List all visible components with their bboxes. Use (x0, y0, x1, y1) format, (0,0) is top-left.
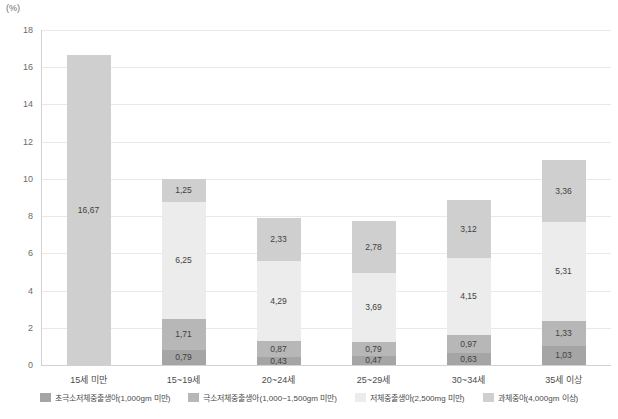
y-axis-tick-label: 14 (23, 99, 33, 109)
bar-segment[interactable]: 1,33 (542, 321, 586, 346)
bar-segment[interactable]: 1,71 (162, 319, 206, 351)
y-axis-tick-label: 6 (28, 248, 33, 258)
bar-stack[interactable]: 1,031,335,313,36 (542, 160, 586, 365)
bar-column[interactable]: 0,470,793,692,7825~29세 (326, 30, 421, 365)
bar-value-label: 0,47 (365, 356, 382, 365)
bar-group: 16,6715세 미만0,791,716,251,2515~19세0,430,8… (41, 30, 611, 365)
x-axis-tick-label: 30~34세 (452, 373, 485, 386)
bar-segment[interactable]: 0,97 (447, 335, 491, 353)
axis-baseline (41, 365, 611, 366)
x-axis-tick-label: 35세 이상 (545, 373, 582, 386)
legend-label: 과체중아(4,000gm 이상) (498, 392, 579, 403)
bar-column[interactable]: 0,791,716,251,2515~19세 (136, 30, 231, 365)
bar-stack[interactable]: 16,67 (67, 55, 111, 365)
bar-segment[interactable]: 2,33 (257, 218, 301, 261)
y-axis-tick-label: 18 (23, 25, 33, 35)
legend-item[interactable]: 초극소저체중출생아(1,000gm 미만) (40, 392, 171, 403)
bar-segment[interactable]: 0,87 (257, 341, 301, 357)
bar-column[interactable]: 0,430,874,292,3320~24세 (231, 30, 326, 365)
bar-value-label: 1,33 (555, 329, 572, 338)
bar-segment[interactable]: 0,47 (352, 356, 396, 365)
legend-swatch-icon (40, 393, 51, 402)
bar-segment[interactable]: 4,15 (447, 258, 491, 335)
bar-segment[interactable]: 16,67 (67, 55, 111, 365)
x-axis-tick-label: 15~19세 (167, 373, 200, 386)
bar-segment[interactable]: 1,03 (542, 346, 586, 365)
bar-value-label: 6,25 (175, 256, 192, 265)
bar-value-label: 2,78 (365, 243, 382, 252)
y-axis-tick-label: 4 (28, 286, 33, 296)
bar-value-label: 4,15 (460, 292, 477, 301)
y-axis-tick-label: 2 (28, 323, 33, 333)
bar-stack[interactable]: 0,430,874,292,33 (257, 218, 301, 365)
bar-segment[interactable]: 3,12 (447, 200, 491, 258)
bar-segment[interactable]: 0,79 (162, 350, 206, 365)
bar-value-label: 0,97 (460, 340, 477, 349)
bar-segment[interactable]: 0,79 (352, 342, 396, 357)
bar-segment[interactable]: 5,31 (542, 222, 586, 321)
bar-segment[interactable]: 0,43 (257, 357, 301, 365)
bar-value-label: 16,67 (78, 206, 99, 215)
legend-swatch-icon (188, 393, 199, 402)
bar-column[interactable]: 1,031,335,313,3635세 이상 (516, 30, 611, 365)
y-axis-tick-label: 0 (28, 360, 33, 370)
bar-column[interactable]: 16,6715세 미만 (41, 30, 136, 365)
bar-segment[interactable]: 3,69 (352, 273, 396, 342)
bar-value-label: 0,87 (270, 345, 287, 354)
bar-value-label: 3,36 (555, 187, 572, 196)
plot-area: 181614121086420 16,6715세 미만0,791,716,251… (41, 30, 611, 365)
bar-value-label: 0,63 (460, 355, 477, 364)
bar-segment[interactable]: 3,36 (542, 160, 586, 223)
stacked-bar-chart: (%) 181614121086420 16,6715세 미만0,791,716… (0, 0, 618, 419)
bar-value-label: 0,79 (365, 345, 382, 354)
bar-value-label: 1,71 (175, 330, 192, 339)
y-axis-tick-label: 10 (23, 174, 33, 184)
x-axis-tick-label: 20~24세 (262, 373, 295, 386)
bar-segment[interactable]: 6,25 (162, 202, 206, 318)
bar-column[interactable]: 0,630,974,153,1230~34세 (421, 30, 516, 365)
legend-label: 저체중출생아(2,500mg 미만) (370, 392, 465, 403)
legend-swatch-icon (483, 393, 494, 402)
bar-segment[interactable]: 2,78 (352, 221, 396, 273)
bar-segment[interactable]: 4,29 (257, 261, 301, 341)
bar-segment[interactable]: 0,63 (447, 353, 491, 365)
bar-value-label: 1,03 (555, 351, 572, 360)
bar-segment[interactable]: 1,25 (162, 179, 206, 202)
bar-value-label: 2,33 (270, 235, 287, 244)
x-axis-tick-label: 15세 미만 (70, 373, 107, 386)
y-axis-tick-label: 8 (28, 211, 33, 221)
bar-value-label: 5,31 (555, 267, 572, 276)
bar-stack[interactable]: 0,630,974,153,12 (447, 200, 491, 365)
bar-value-label: 0,79 (175, 353, 192, 362)
legend-item[interactable]: 저체중출생아(2,500mg 미만) (355, 392, 465, 403)
legend-label: 극소저체중출생아(1,000~1,500gm 미만) (203, 392, 336, 403)
x-axis-tick-label: 25~29세 (357, 373, 390, 386)
bar-value-label: 4,29 (270, 297, 287, 306)
y-axis-tick-label: 16 (23, 62, 33, 72)
y-axis-unit-label: (%) (6, 3, 20, 13)
legend-item[interactable]: 극소저체중출생아(1,000~1,500gm 미만) (188, 392, 336, 403)
y-axis-tick-label: 12 (23, 137, 33, 147)
bar-value-label: 1,25 (175, 186, 192, 195)
legend-item[interactable]: 과체중아(4,000gm 이상) (483, 392, 579, 403)
bar-value-label: 3,12 (460, 225, 477, 234)
bar-value-label: 3,69 (365, 303, 382, 312)
legend-swatch-icon (355, 393, 366, 402)
chart-legend: 초극소저체중출생아(1,000gm 미만)극소저체중출생아(1,000~1,50… (0, 392, 618, 403)
bar-stack[interactable]: 0,470,793,692,78 (352, 221, 396, 365)
bar-value-label: 0,43 (270, 357, 287, 365)
legend-label: 초극소저체중출생아(1,000gm 미만) (55, 392, 171, 403)
bar-stack[interactable]: 0,791,716,251,25 (162, 179, 206, 365)
